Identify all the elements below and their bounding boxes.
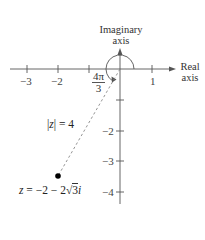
imaginary-axis-label: Imaginary axis — [98, 24, 144, 46]
modulus-label: |z| = 4 — [47, 118, 74, 130]
x-tick-label--2: −2 — [51, 75, 63, 87]
modulus-value: = 4 — [56, 118, 74, 130]
y-tick-label--4: −4 — [102, 186, 114, 198]
imaginary-axis-arrow-icon — [118, 48, 123, 55]
angle-label: 4π 3 — [92, 71, 105, 94]
x-tick-label--3: −3 — [20, 75, 32, 87]
real-axis-label: Real axis — [176, 61, 204, 83]
real-axis-arrow-icon — [169, 67, 176, 72]
y-tick-label--3: −3 — [102, 155, 114, 167]
point-label: z = −2 − 2√3i — [19, 184, 81, 196]
point-real-part: = −2 − 2 — [23, 184, 65, 196]
imaginary-axis-label-line1: Imaginary — [99, 24, 142, 35]
complex-point — [55, 173, 61, 179]
y-tick-label--2: −2 — [102, 125, 114, 137]
angle-denominator: 3 — [92, 83, 105, 94]
x-tick-label-1: 1 — [150, 75, 156, 87]
real-axis-label-line2: axis — [182, 72, 199, 83]
imaginary-unit: i — [78, 184, 81, 196]
real-axis-label-line1: Real — [180, 61, 199, 72]
imaginary-axis-label-line2: axis — [113, 35, 130, 46]
